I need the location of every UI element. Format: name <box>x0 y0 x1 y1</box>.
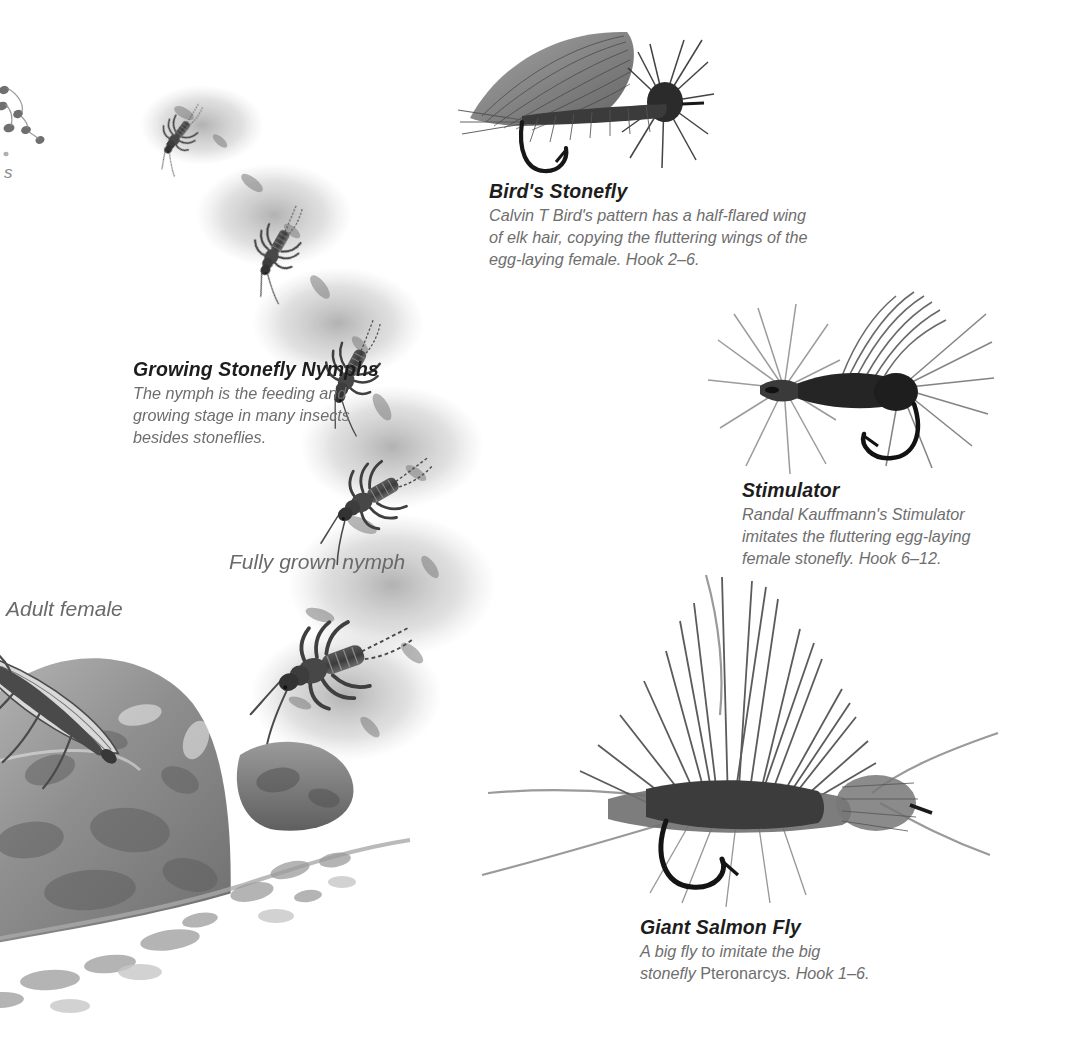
caption-line: growing stage in many insects <box>133 404 433 426</box>
caption-line: imitates the fluttering egg-laying <box>742 525 1042 547</box>
caption-line: The nymph is the feeding and <box>133 382 433 404</box>
caption-line-prefix: stonefly <box>640 964 700 982</box>
caption-title-stimulator: Stimulator <box>742 479 1042 501</box>
caption-line-suffix: . Hook 1–6. <box>787 964 870 982</box>
giant-salmon-fly-photo <box>470 555 1000 915</box>
caption-line: Randal Kauffmann's Stimulator <box>742 503 1042 525</box>
caption-line: egg-laying female. Hook 2–6. <box>489 248 819 270</box>
caption-giant-salmon-fly: Giant Salmon Fly A big fly to imitate th… <box>640 916 940 984</box>
edge-text-fragment: s <box>4 163 13 183</box>
book-page: s Bird's Stonefly Calvin T Bird's patter… <box>0 0 1084 1040</box>
caption-title-giant-salmon-fly: Giant Salmon Fly <box>640 916 940 938</box>
caption-line: female stonefly. Hook 6–12. <box>742 547 1042 569</box>
adult-female-illustration <box>0 620 410 1040</box>
caption-body-giant-salmon-fly: A big fly to imitate the big stonefly Pt… <box>640 940 940 984</box>
caption-line: besides stoneflies. <box>133 426 433 448</box>
caption-stimulator: Stimulator Randal Kauffmann's Stimulator… <box>742 479 1042 570</box>
caption-birds-stonefly: Bird's Stonefly Calvin T Bird's pattern … <box>489 180 819 271</box>
genus-name: Pteronarcys <box>700 964 786 982</box>
caption-body-growing-stonefly-nymphs: The nymph is the feeding and growing sta… <box>133 382 433 448</box>
caption-line: stonefly Pteronarcys. Hook 1–6. <box>640 962 940 984</box>
label-adult-female: Adult female <box>6 597 123 621</box>
caption-line: A big fly to imitate the big <box>640 940 940 962</box>
caption-body-birds-stonefly: Calvin T Bird's pattern has a half-flare… <box>489 204 819 270</box>
stimulator-photo <box>700 288 995 483</box>
caption-growing-stonefly-nymphs: Growing Stonefly Nymphs The nymph is the… <box>133 358 433 449</box>
caption-title-birds-stonefly: Bird's Stonefly <box>489 180 819 202</box>
caption-line: of elk hair, copying the fluttering wing… <box>489 226 819 248</box>
caption-line: Calvin T Bird's pattern has a half-flare… <box>489 204 819 226</box>
label-fully-grown-nymph: Fully grown nymph <box>229 550 405 574</box>
caption-title-growing-stonefly-nymphs: Growing Stonefly Nymphs <box>133 358 433 380</box>
birds-stonefly-photo <box>452 10 722 180</box>
caption-body-stimulator: Randal Kauffmann's Stimulator imitates t… <box>742 503 1042 569</box>
